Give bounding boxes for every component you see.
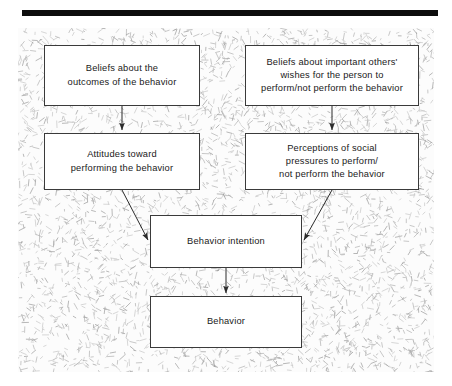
edge-perceptions-to-intention: [304, 190, 332, 240]
node-behavior-intention: Behavior intention: [150, 215, 302, 268]
figure-canvas: Beliefs about the outcomes of the behavi…: [0, 0, 452, 386]
node-behavior-intention-label: Behavior intention: [187, 235, 265, 248]
node-beliefs-about-outcomes-label: Beliefs about the outcomes of the behavi…: [68, 62, 177, 88]
node-perceptions-of-social-pressures-label: Perceptions of social pressures to perfo…: [279, 142, 385, 182]
edge-attitudes-to-intention: [122, 190, 148, 240]
node-beliefs-about-outcomes: Beliefs about the outcomes of the behavi…: [44, 45, 200, 106]
node-beliefs-about-important-others-label: Beliefs about important others' wishes f…: [261, 56, 403, 96]
node-behavior-label: Behavior: [207, 315, 245, 328]
node-attitudes-toward-performing: Attitudes toward performing the behavior: [44, 133, 200, 190]
node-perceptions-of-social-pressures: Perceptions of social pressures to perfo…: [245, 133, 419, 190]
flowchart-layer: Beliefs about the outcomes of the behavi…: [0, 0, 452, 386]
node-beliefs-about-important-others: Beliefs about important others' wishes f…: [245, 45, 419, 106]
node-attitudes-toward-performing-label: Attitudes toward performing the behavior: [71, 148, 173, 174]
node-behavior: Behavior: [150, 296, 302, 348]
